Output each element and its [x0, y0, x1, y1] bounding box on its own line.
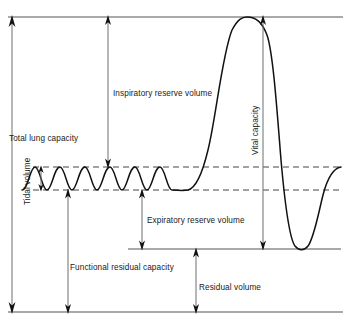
residual-volume-label: Residual volume	[199, 283, 261, 292]
lung-volumes-spirogram: Lung volumes and capacities spirogram To…	[0, 0, 351, 326]
expiratory-reserve-volume-measure: Expiratory reserve volume	[139, 189, 245, 251]
vital-capacity-label: Vital capacity	[251, 105, 260, 155]
functional-residual-capacity-measure: Functional residual capacity	[65, 189, 175, 315]
inspiratory-reserve-volume-measure: Inspiratory reserve volume	[105, 15, 212, 169]
expiratory-reserve-volume-label: Expiratory reserve volume	[147, 216, 245, 225]
functional-residual-capacity-label: Functional residual capacity	[70, 263, 175, 272]
tidal-volume-label: Tidal volume	[23, 157, 32, 205]
tidal-volume-measure: Tidal volume	[23, 157, 44, 205]
inspiratory-reserve-volume-label: Inspiratory reserve volume	[113, 89, 212, 98]
total-lung-capacity-label: Total lung capacity	[9, 134, 79, 143]
residual-volume-measure: Residual volume	[193, 248, 261, 315]
vital-capacity-measure: Vital capacity	[251, 15, 266, 251]
